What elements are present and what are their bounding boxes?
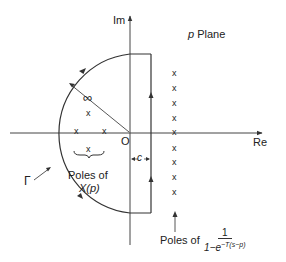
c-label: c	[137, 153, 142, 163]
pole-marker: x	[172, 84, 177, 93]
pole-marker: x	[172, 114, 177, 123]
fraction-numerator: 1	[218, 227, 232, 239]
pole-marker: x	[86, 109, 91, 118]
arrow-up-icon	[149, 92, 154, 98]
pole-marker: x	[172, 144, 177, 153]
right-poles-label: Poles of	[160, 235, 200, 246]
pole-marker: x	[172, 128, 177, 137]
plane-variable: p	[188, 28, 194, 40]
pole-marker: x	[102, 127, 107, 136]
imaginary-axis-label: Im	[113, 15, 125, 26]
c-arrow-left-icon	[131, 157, 135, 161]
fraction-denominator: 1−e−T(s−p)	[204, 239, 245, 254]
p-plane-diagram	[0, 0, 286, 262]
real-axis-label: Re	[253, 137, 267, 148]
pole-marker: x	[74, 127, 79, 136]
pole-marker: x	[86, 145, 91, 154]
gamma-label: Γ	[24, 175, 31, 187]
origin-label: O	[121, 136, 130, 147]
right-poles-arrow-icon	[173, 211, 178, 217]
left-poles-label-line2: X(p)	[79, 183, 100, 194]
pole-marker: x	[172, 99, 177, 108]
arrow-up-icon	[149, 176, 154, 182]
fraction-denominator-exponent: −T(s−p)	[221, 241, 246, 248]
c-arrow-right-icon	[146, 157, 150, 161]
pole-marker: x	[172, 173, 177, 182]
right-poles-fraction: 1 1−e−T(s−p)	[204, 227, 245, 254]
plane-title: p Plane	[188, 28, 225, 40]
pole-marker: x	[172, 188, 177, 197]
pole-marker: x	[172, 158, 177, 167]
radius-line	[70, 84, 129, 132]
fraction-denominator-base: 1−e	[204, 242, 221, 253]
infinity-label: ∞	[83, 91, 92, 104]
arc-arrow-icon	[79, 68, 86, 74]
plane-word: Plane	[197, 28, 225, 40]
left-poles-label-line1: Poles of	[68, 170, 108, 181]
pole-marker: x	[172, 69, 177, 78]
